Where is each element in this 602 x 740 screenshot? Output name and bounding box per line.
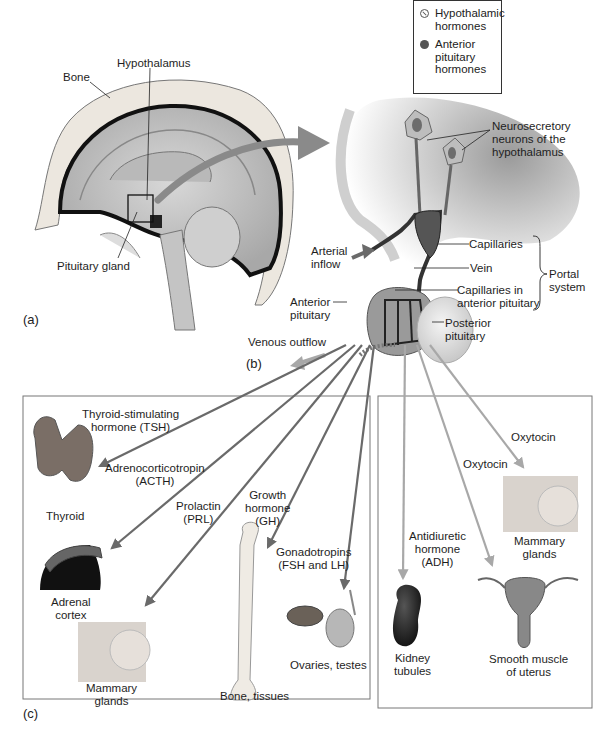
diagram-artwork [0, 0, 602, 740]
label-adh: Antidiuretic hormone (ADH) [409, 530, 466, 569]
anterior-pituitary-hormone-icon [420, 40, 429, 49]
label-capillaries-anterior-pituitary: Capillaries in anterior pituitary [457, 284, 539, 310]
mammary-nursing-illustration-anterior [78, 622, 150, 682]
panel-letter-b: (b) [246, 356, 262, 371]
label-neurosecretory-neurons: Neurosecretory neurons of the hypothalam… [492, 120, 571, 159]
hypothalamic-hormone-icon [420, 9, 429, 18]
label-hypothalamus: Hypothalamus [117, 57, 191, 70]
label-tsh: Thyroid-stimulating hormone (TSH) [82, 408, 179, 434]
label-acth: Adrenocorticotropin (ACTH) [105, 462, 205, 488]
label-target-kidney-tubules: Kidney tubules [394, 652, 431, 678]
label-target-adrenal-cortex: Adrenal cortex [51, 596, 91, 622]
kidney-illustration [393, 585, 421, 647]
label-oxytocin-uterus: Oxytocin [463, 458, 508, 471]
label-target-mammary-posterior: Mammary glands [514, 535, 565, 561]
label-vein: Vein [470, 262, 492, 275]
label-prolactin: Prolactin (PRL) [176, 500, 221, 526]
bone-illustration [231, 522, 259, 700]
panel-letter-a: (a) [23, 312, 39, 327]
label-capillaries: Capillaries [469, 238, 523, 251]
label-target-ovaries-testes: Ovaries, testes [290, 659, 367, 672]
label-pituitary-gland: Pituitary gland [57, 260, 130, 273]
label-target-uterus: Smooth muscle of uterus [489, 653, 568, 679]
legend-item-hypothalamic: Hypothalamic hormones [420, 7, 505, 32]
label-arterial-inflow: Arterial inflow [311, 245, 347, 271]
ovaries-testes-illustration [287, 590, 355, 647]
label-oxytocin-mammary: Oxytocin [511, 431, 556, 444]
panel-letter-c: (c) [23, 706, 38, 721]
uterus-illustration [478, 578, 578, 648]
adrenal-illustration [40, 545, 102, 590]
label-growth-hormone: Growth hormone (GH) [245, 489, 290, 528]
label-anterior-pituitary: Anterior pituitary [290, 296, 330, 322]
label-venous-outflow: Venous outflow [248, 336, 326, 349]
label-posterior-pituitary: Posterior pituitary [445, 317, 491, 343]
label-portal-system: Portal system [549, 268, 585, 294]
label-target-thyroid: Thyroid [46, 510, 84, 523]
legend: Hypothalamic hormones Anterior pituitary… [413, 0, 502, 94]
brain-sagittal-illustration [35, 80, 293, 330]
mammary-nursing-illustration-posterior [503, 476, 578, 532]
legend-item-anterior-pituitary: Anterior pituitary hormones [420, 38, 486, 76]
label-target-bone-tissues: Bone, tissues [220, 690, 289, 703]
label-target-mammary-glands: Mammary glands [86, 682, 137, 708]
label-gonadotropins: Gonadotropins (FSH and LH) [276, 546, 351, 572]
label-bone: Bone [63, 71, 90, 84]
